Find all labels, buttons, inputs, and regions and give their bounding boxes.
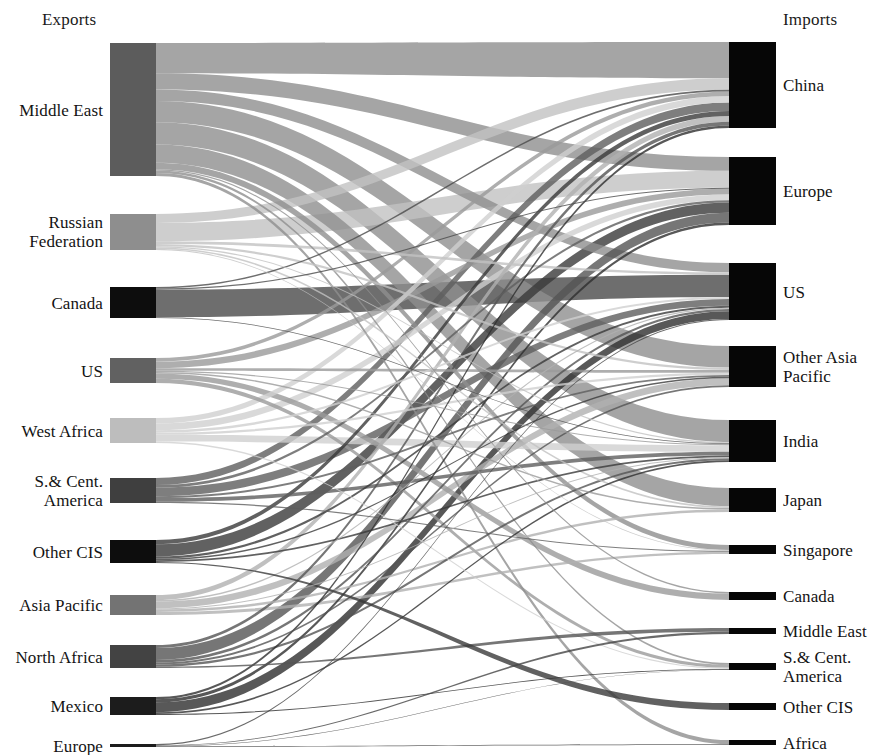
import-node-label: Canada — [783, 587, 835, 606]
sankey-links-layer — [156, 42, 729, 747]
sankey-figure: Exports Imports Middle EastRussianFedera… — [0, 0, 882, 755]
import-node-bar[interactable] — [729, 420, 776, 462]
label-line: Other Asia — [783, 348, 857, 367]
import-node-bar[interactable] — [729, 628, 776, 634]
import-node-label: Other CIS — [783, 697, 853, 716]
label-line: Mexico — [50, 697, 103, 716]
label-line: Federation — [29, 232, 103, 251]
label-line: US — [81, 361, 103, 380]
label-line: Canada — [51, 293, 103, 312]
import-node-bar[interactable] — [729, 263, 776, 320]
label-line: S.& Cent. — [783, 648, 851, 667]
export-node-bar[interactable] — [110, 595, 156, 615]
export-node-bar[interactable] — [110, 358, 156, 383]
label-line: Russian — [29, 213, 103, 232]
label-line: Japan — [783, 491, 822, 510]
import-node-label: India — [783, 432, 818, 451]
label-line: China — [783, 76, 824, 95]
import-node-bar[interactable] — [729, 42, 776, 128]
export-node-bar[interactable] — [110, 287, 156, 318]
export-node-label: West Africa — [22, 421, 103, 440]
exports-column-title: Exports — [42, 10, 96, 29]
import-node-bar[interactable] — [729, 703, 776, 710]
export-node-label: Canada — [51, 293, 103, 312]
export-node-bar[interactable] — [110, 43, 156, 176]
export-node-label: Asia Pacific — [19, 596, 103, 615]
import-node-bar[interactable] — [729, 663, 776, 670]
sankey-link — [156, 368, 729, 373]
export-node-bar[interactable] — [110, 697, 156, 715]
label-line: Asia Pacific — [19, 596, 103, 615]
export-node-label: North Africa — [15, 647, 103, 666]
label-line: Middle East — [19, 100, 103, 119]
import-node-label: US — [783, 282, 805, 301]
import-node-bar[interactable] — [729, 545, 776, 554]
export-node-bar[interactable] — [110, 214, 156, 250]
import-node-bar[interactable] — [729, 592, 776, 600]
export-node-label: S.& Cent.America — [35, 472, 103, 510]
import-node-bar[interactable] — [729, 740, 776, 745]
import-node-bar[interactable] — [729, 346, 776, 387]
export-node-label: US — [81, 361, 103, 380]
export-node-label: Europe — [53, 736, 103, 755]
label-line: India — [783, 432, 818, 451]
import-node-label: Other AsiaPacific — [783, 348, 857, 386]
label-line: Europe — [53, 736, 103, 755]
sankey-link — [156, 670, 729, 747]
import-node-bar[interactable] — [729, 157, 776, 225]
label-line: America — [35, 491, 103, 510]
label-line: Other CIS — [33, 542, 103, 561]
import-node-label: Europe — [783, 182, 833, 201]
imports-column-title: Imports — [783, 10, 837, 29]
import-node-label: Japan — [783, 491, 822, 510]
import-node-label: Singapore — [783, 540, 853, 559]
sankey-link — [156, 744, 729, 747]
label-line: Pacific — [783, 367, 857, 386]
import-node-label: China — [783, 76, 824, 95]
import-node-bar[interactable] — [729, 488, 776, 512]
label-line: Middle East — [783, 622, 867, 641]
import-node-label: S.& Cent.America — [783, 648, 851, 686]
label-line: US — [783, 282, 805, 301]
label-line: Canada — [783, 587, 835, 606]
sankey-canvas — [0, 0, 882, 755]
import-node-label: Africa — [783, 733, 827, 752]
export-node-label: RussianFederation — [29, 213, 103, 251]
label-line: North Africa — [15, 647, 103, 666]
label-line: Europe — [783, 182, 833, 201]
sankey-link — [156, 42, 729, 78]
label-line: West Africa — [22, 421, 103, 440]
label-line: Other CIS — [783, 697, 853, 716]
export-node-label: Other CIS — [33, 542, 103, 561]
export-node-label: Middle East — [19, 100, 103, 119]
export-node-label: Mexico — [50, 697, 103, 716]
export-node-bar[interactable] — [110, 744, 156, 747]
label-line: S.& Cent. — [35, 472, 103, 491]
export-node-bar[interactable] — [110, 418, 156, 443]
label-line: Africa — [783, 733, 827, 752]
label-line: America — [783, 667, 851, 686]
export-node-bar[interactable] — [110, 540, 156, 563]
import-node-label: Middle East — [783, 622, 867, 641]
export-node-bar[interactable] — [110, 645, 156, 668]
export-node-bar[interactable] — [110, 478, 156, 503]
label-line: Singapore — [783, 540, 853, 559]
